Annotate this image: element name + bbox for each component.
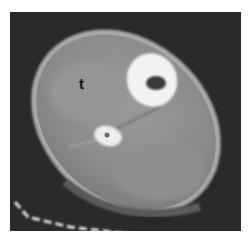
leg-soft-tissue (10, 12, 241, 231)
tibia-marrow (146, 76, 166, 90)
ct-scan-image (10, 12, 241, 231)
annotation-label: t (79, 76, 84, 91)
ct-scan-frame (10, 12, 241, 231)
